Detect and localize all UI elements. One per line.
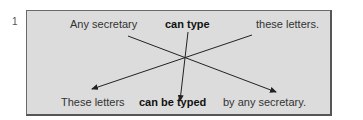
active-object: these letters. bbox=[256, 18, 319, 30]
arrow-verb-to-passive-verb bbox=[180, 32, 188, 101]
active-verb: can type bbox=[165, 18, 210, 30]
active-subject: Any secretary bbox=[70, 18, 137, 30]
arrow-object-to-subject bbox=[92, 35, 252, 89]
passive-verb: can be typed bbox=[139, 96, 206, 108]
passive-subject: These letters bbox=[61, 96, 125, 108]
passive-agent: by any secretary. bbox=[223, 96, 306, 108]
arrow-subject-to-agent bbox=[128, 36, 276, 92]
